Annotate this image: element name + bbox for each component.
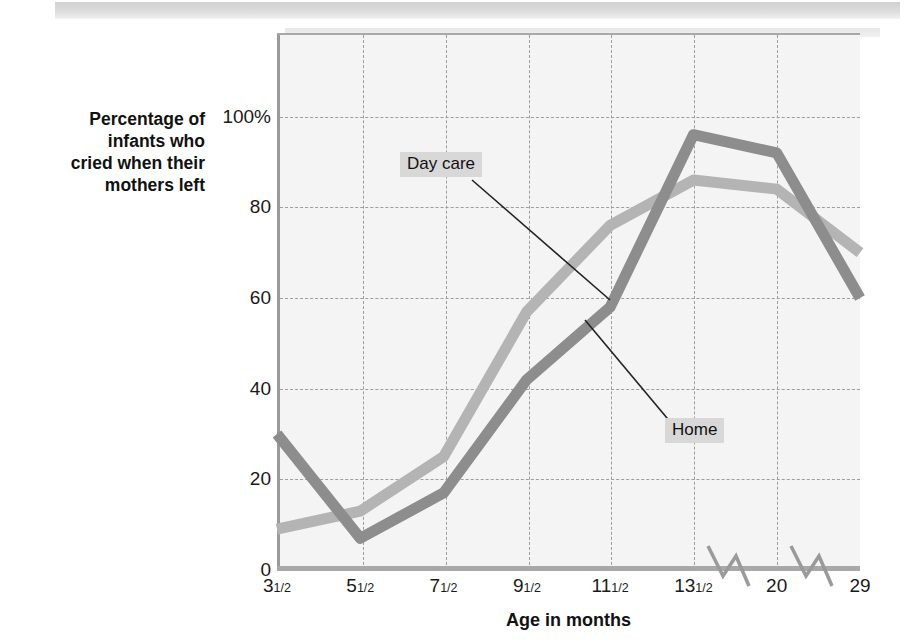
y-tick-60: 60 — [201, 287, 271, 309]
x-tick-4-whole: 11 — [592, 575, 612, 596]
x-tick-2-frac: 1/2 — [440, 581, 457, 595]
x-tick-0-whole: 3 — [263, 575, 274, 596]
x-tick-5: 131/2 — [674, 575, 713, 597]
x-tick-1-whole: 5 — [346, 575, 357, 596]
gridline-x-20 — [777, 35, 778, 570]
x-tick-1: 51/2 — [346, 575, 374, 597]
gridline-y-80 — [280, 207, 860, 208]
y-tick-100: 100% — [201, 106, 271, 128]
x-tick-5-frac: 1/2 — [695, 581, 712, 595]
x-tick-7-whole: 29 — [849, 575, 870, 596]
x-tick-3: 91/2 — [513, 575, 541, 597]
y-axis-label-line-4: mothers left — [20, 174, 205, 196]
gridline-y-40 — [280, 389, 860, 390]
x-tick-3-frac: 1/2 — [523, 581, 540, 595]
y-axis-label-line-3: cried when their — [20, 152, 205, 174]
x-tick-7: 29 — [849, 575, 870, 597]
gridline-x-7h — [446, 35, 447, 570]
x-tick-0-frac: 1/2 — [274, 581, 291, 595]
y-tick-20: 20 — [201, 468, 271, 490]
gridline-y-60 — [280, 298, 860, 299]
series-label-day-care: Day care — [400, 152, 482, 177]
x-tick-6: 20 — [766, 575, 787, 597]
y-axis-label-line-2: infants who — [20, 130, 205, 152]
gridline-y-20 — [280, 479, 860, 480]
x-tick-2: 71/2 — [430, 575, 458, 597]
gridline-x-9h — [529, 35, 530, 570]
gridline-y-100 — [280, 117, 860, 118]
x-tick-4: 111/2 — [592, 575, 629, 597]
y-axis-label: Percentage of infants who cried when the… — [20, 108, 205, 196]
plot-area — [277, 35, 860, 570]
y-tick-0: 0 — [201, 559, 271, 581]
scan-artifact-band-top — [55, 2, 900, 19]
y-tick-40: 40 — [201, 378, 271, 400]
plot-bottom-rule — [277, 566, 860, 571]
x-tick-6-whole: 20 — [766, 575, 787, 596]
gridline-x-13h — [694, 35, 695, 570]
y-tick-80: 80 — [201, 196, 271, 218]
x-axis-label: Age in months — [277, 610, 860, 631]
x-tick-5-whole: 13 — [674, 575, 695, 596]
x-tick-4-frac: 1/2 — [611, 581, 628, 595]
x-tick-0: 31/2 — [263, 575, 291, 597]
y-axis-tick-labels: 0 20 40 60 80 100% — [197, 35, 271, 570]
x-tick-3-whole: 9 — [513, 575, 524, 596]
series-label-home: Home — [665, 418, 724, 443]
x-tick-1-frac: 1/2 — [357, 581, 374, 595]
y-axis-label-line-1: Percentage of — [20, 108, 205, 130]
x-axis-tick-labels: 31/2 51/2 71/2 91/2 111/2 131/2 20 29 — [277, 575, 860, 605]
gridline-x-11h — [611, 35, 612, 570]
gridline-x-5h — [363, 35, 364, 570]
x-tick-2-whole: 7 — [430, 575, 441, 596]
